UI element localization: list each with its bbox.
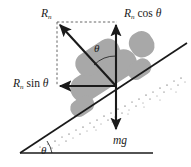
label-rn-symbol: R [41,7,48,19]
label-incline-angle: θ [41,145,46,156]
label-rn-cos-function: cos [137,7,152,19]
label-rn-sin-angle: θ [43,77,49,89]
label-vector-angle: θ [94,43,99,54]
label-rn-cos-symbol: R [124,7,131,19]
label-rn-subscript: n [48,13,52,21]
label-rn-cos-subscript: n [131,13,135,21]
label-rn-sin-function: sin [26,77,39,89]
free-body-diagram-figure: Rn Rn cos θ Rn sin θ mg θ θ [0,0,191,167]
incline-angle-arc [47,141,52,153]
label-rn-sin-subscript: n [20,83,24,91]
label-rn-sin-symbol: R [13,77,20,89]
label-horizontal-component: Rn sin θ [13,78,48,91]
label-vertical-component: Rn cos θ [124,8,161,21]
label-rn-cos-angle: θ [156,7,162,19]
label-resultant-normal-force: Rn [41,8,52,21]
label-weight-force: mg [113,135,127,147]
